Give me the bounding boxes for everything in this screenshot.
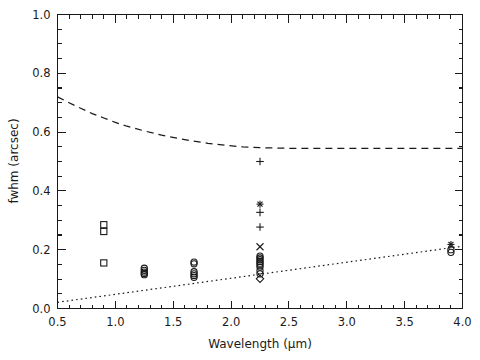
- measurements-k-band-asterisk: [257, 201, 264, 208]
- measurements-k-band-cross: [257, 243, 264, 250]
- data-point-open-square: [101, 222, 107, 228]
- y-axis-title: fwhm (arcsec): [7, 118, 21, 203]
- x-axis-title: Wavelength (μm): [208, 337, 312, 351]
- data-point-open-square: [101, 228, 107, 234]
- x-tick-label: 1.0: [106, 315, 124, 329]
- y-tick-label: 0.2: [32, 243, 50, 257]
- measurements-k-band-stack: [257, 253, 263, 277]
- measurements-l-band-circles: [448, 247, 454, 256]
- data-point-plus: [256, 209, 264, 217]
- seeing-limit-dashed: [58, 97, 463, 148]
- data-series-layer: [58, 97, 463, 303]
- x-axis-tick-labels: 0.51.01.52.02.53.03.54.0: [48, 315, 471, 329]
- y-tick-label: 0.8: [32, 66, 50, 80]
- measurements-open-square: [101, 222, 107, 266]
- y-axis-tick-labels: 0.00.20.40.60.81.0: [32, 8, 50, 316]
- data-point-plus: [256, 223, 264, 231]
- measurements-h-band: [191, 259, 197, 280]
- figure-container: 0.51.01.52.02.53.03.54.0 0.00.20.40.60.8…: [0, 0, 480, 360]
- data-point-cross: [257, 243, 264, 250]
- data-point-plus: [256, 158, 264, 166]
- data-point-open-square: [101, 260, 107, 266]
- x-tick-label: 2.5: [280, 315, 298, 329]
- y-tick-label: 0.6: [32, 125, 50, 139]
- x-tick-label: 3.0: [338, 315, 356, 329]
- x-tick-label: 4.0: [453, 315, 471, 329]
- scatter-plot: 0.51.01.52.02.53.03.54.0 0.00.20.40.60.8…: [0, 0, 480, 360]
- measurements-j-band: [141, 265, 147, 278]
- x-tick-label: 0.5: [48, 315, 66, 329]
- y-tick-label: 0.4: [32, 184, 50, 198]
- x-tick-label: 2.0: [222, 315, 240, 329]
- x-tick-label: 3.5: [395, 315, 413, 329]
- x-tick-label: 1.5: [164, 315, 182, 329]
- y-tick-label: 0.0: [32, 302, 50, 316]
- measurements-k-band-plus: [256, 158, 264, 231]
- y-tick-label: 1.0: [32, 8, 50, 22]
- data-point-asterisk: [257, 201, 264, 208]
